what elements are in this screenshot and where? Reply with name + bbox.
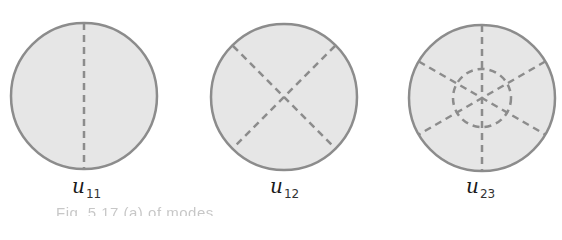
mode-symbol: u [72, 174, 85, 198]
mode-subscript: 12 [284, 187, 299, 201]
mode-subscript: 11 [86, 187, 101, 201]
mode-u12-diagram [211, 24, 357, 170]
mode-symbol: u [270, 174, 283, 198]
mode-u23-diagram [409, 25, 555, 171]
mode-label-u11: u11 [72, 176, 101, 204]
mode-label-u12: u12 [270, 176, 299, 204]
mode-symbol: u [466, 174, 479, 198]
mode-u11-diagram [11, 23, 157, 169]
mode-label-u23: u23 [466, 176, 495, 204]
mode-subscript: 23 [480, 187, 495, 201]
figure-caption: Fig. 5.17 (a) of modes [56, 204, 214, 216]
